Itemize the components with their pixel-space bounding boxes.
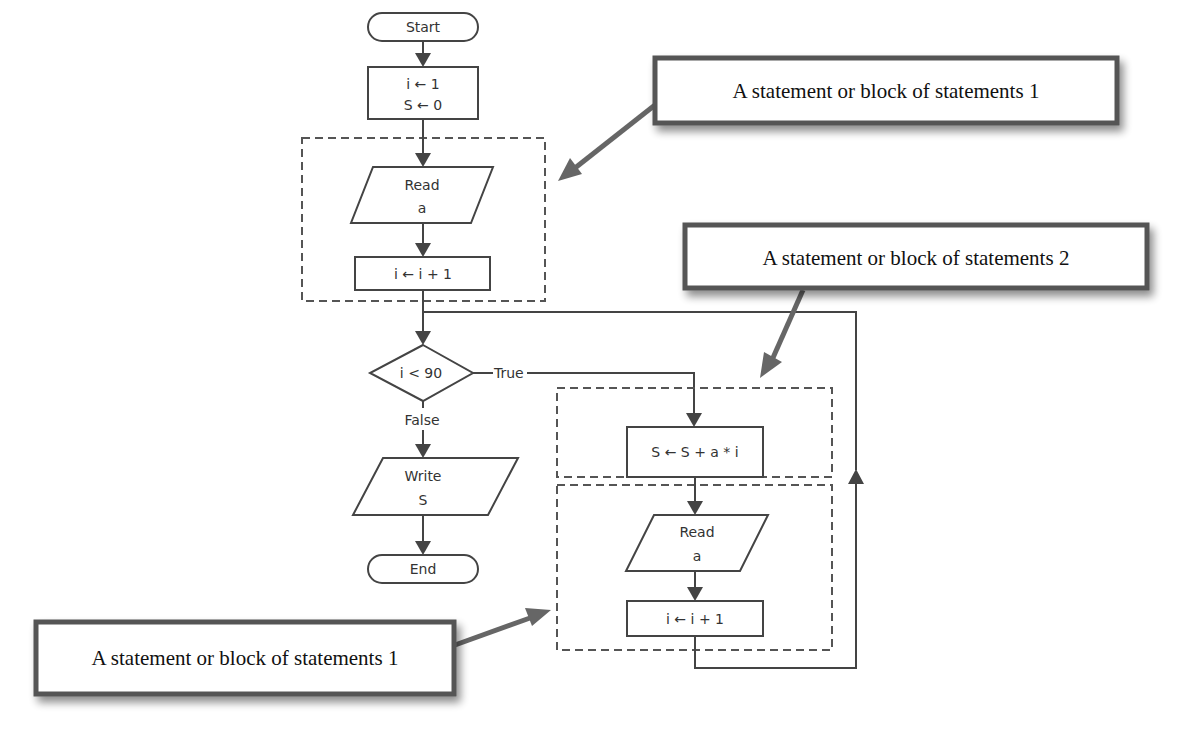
false-label: False [404, 412, 439, 428]
flowchart-canvas: Start i ← 1 S ← 0 Read a i ← i + 1 [0, 0, 1179, 730]
arrow-start-to-init [415, 41, 431, 67]
read2-input: Read a [626, 515, 768, 571]
read1-line-1: Read [404, 177, 439, 193]
callout-top: A statement or block of statements 1 [558, 58, 1117, 181]
read2-line-1: Read [679, 524, 714, 540]
callout-bottom-label: A statement or block of statements 1 [92, 646, 399, 670]
callout-bottom: A statement or block of statements 1 [36, 608, 551, 694]
write-line-1: Write [405, 468, 442, 484]
init-line-2: S ← 0 [404, 97, 442, 113]
true-label: True [493, 365, 524, 381]
write-output: Write S [353, 458, 518, 515]
accumulate-process: S ← S + a * i [627, 427, 763, 477]
start-label: Start [406, 19, 441, 35]
callout-middle: A statement or block of statements 2 [685, 225, 1147, 378]
read1-input: Read a [351, 167, 493, 223]
inc2-label: i ← i + 1 [666, 611, 724, 627]
decision-diamond: i < 90 [370, 345, 473, 401]
init-process: i ← 1 S ← 0 [368, 67, 478, 119]
read1-line-2: a [418, 200, 427, 216]
arrow-read2-to-inc2 [687, 571, 703, 601]
arrow-false-to-write [415, 430, 431, 458]
init-line-1: i ← 1 [406, 76, 439, 92]
decision-label: i < 90 [400, 365, 442, 381]
inc2-process: i ← i + 1 [627, 601, 763, 636]
arrow-inc1-to-decision [415, 290, 431, 345]
accumulate-label: S ← S + a * i [651, 444, 738, 460]
arrow-init-to-read1 [415, 119, 431, 167]
write-line-2: S [419, 492, 428, 508]
arrow-write-to-end [415, 515, 431, 555]
inc1-label: i ← i + 1 [394, 266, 452, 282]
end-label: End [410, 561, 437, 577]
arrow-true-to-accumulate [527, 373, 702, 427]
inc1-process: i ← i + 1 [355, 257, 490, 290]
end-terminator: End [368, 555, 478, 583]
callout-top-label: A statement or block of statements 1 [733, 79, 1040, 103]
read2-line-2: a [693, 548, 702, 564]
start-terminator: Start [368, 13, 478, 41]
arrow-accumulate-to-read2 [687, 477, 703, 515]
arrow-read1-to-inc1 [415, 223, 431, 257]
callout-middle-label: A statement or block of statements 2 [763, 246, 1070, 270]
